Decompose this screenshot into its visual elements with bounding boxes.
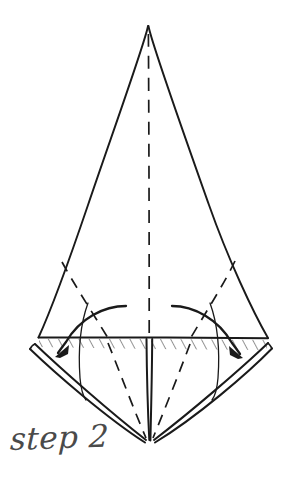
horizontal-fold-line <box>39 337 269 338</box>
origami-diagram-figure: step 2 <box>0 0 288 487</box>
origami-drawing-canvas <box>0 0 288 487</box>
paper-background <box>0 0 288 487</box>
